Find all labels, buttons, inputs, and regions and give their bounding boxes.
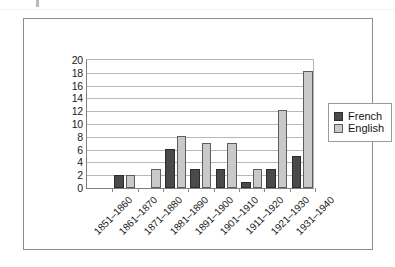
- scan-artifact-mark: [36, 0, 39, 7]
- scan-edge-line: [0, 9, 395, 10]
- legend-item-english[interactable]: English: [334, 123, 384, 134]
- y-tick-label: 2: [77, 170, 83, 181]
- bar-english: [303, 71, 313, 188]
- bar-group: [112, 60, 137, 188]
- bar-english: [278, 110, 288, 188]
- y-tick-label: 6: [77, 144, 83, 155]
- bar-group: [290, 60, 315, 188]
- bar-french: [292, 156, 302, 189]
- bar-group: [214, 60, 239, 188]
- x-tick-mark: [264, 188, 265, 192]
- bar-french: [241, 182, 251, 189]
- bar-french: [165, 149, 175, 188]
- bar-english: [227, 143, 237, 189]
- plot-area: 20181614121086420: [86, 59, 314, 189]
- legend-swatch-english-icon: [334, 124, 343, 133]
- x-tick-mark: [138, 188, 139, 192]
- y-tick-label: 16: [72, 80, 83, 91]
- x-tick-mark: [239, 188, 240, 192]
- legend-item-label: French: [348, 111, 382, 122]
- bar-english: [151, 169, 161, 189]
- bar-group: [163, 60, 188, 188]
- legend-swatch-french-icon: [334, 112, 343, 121]
- y-tick-label: 0: [77, 183, 83, 194]
- legend-item-french[interactable]: French: [334, 111, 384, 122]
- bar-english: [202, 143, 212, 189]
- y-tick-label: 8: [77, 132, 83, 143]
- legend-item-label: English: [348, 123, 384, 134]
- y-tick-label: 12: [72, 106, 83, 117]
- y-tick-label: 14: [72, 93, 83, 104]
- bar-french: [114, 175, 124, 188]
- bar-english: [177, 136, 187, 188]
- bar-group: [264, 60, 289, 188]
- y-tick-label: 20: [72, 55, 83, 66]
- bar-french: [216, 169, 226, 189]
- bar-group: [87, 60, 112, 188]
- x-tick-mark: [214, 188, 215, 192]
- x-tick-mark: [112, 188, 113, 192]
- y-tick-label: 10: [72, 119, 83, 130]
- x-tick-mark: [315, 188, 316, 192]
- chart-figure-frame: 20181614121086420 1851–18601861–18701871…: [23, 18, 373, 250]
- bar-french: [190, 169, 200, 189]
- x-tick-mark: [188, 188, 189, 192]
- y-tick-label: 18: [72, 68, 83, 79]
- x-tick-mark: [290, 188, 291, 192]
- bar-group: [188, 60, 213, 188]
- x-tick-mark: [163, 188, 164, 192]
- chart-legend: FrenchEnglish: [328, 103, 392, 142]
- bar-english: [253, 169, 263, 189]
- bar-french: [266, 169, 276, 189]
- bar-group: [138, 60, 163, 188]
- bar-english: [126, 175, 136, 188]
- bar-group: [239, 60, 264, 188]
- y-tick-label: 4: [77, 157, 83, 168]
